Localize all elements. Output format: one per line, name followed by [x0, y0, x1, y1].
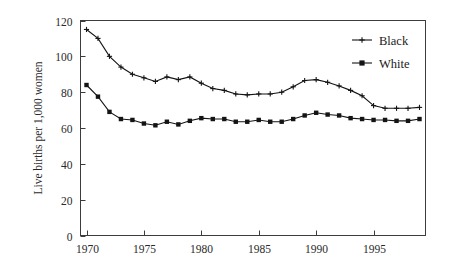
data-point [176, 122, 180, 126]
data-point [268, 120, 272, 124]
data-point [279, 90, 284, 95]
series-line-white [87, 85, 420, 125]
x-axis-ticks [88, 231, 375, 236]
data-point [211, 117, 215, 121]
data-point [187, 74, 192, 79]
legend-label-black: Black [379, 34, 409, 48]
data-point [233, 91, 238, 96]
series-line-black [87, 29, 420, 108]
data-point [245, 120, 249, 124]
data-point [130, 118, 134, 122]
y-tick-label-60: 60 [61, 123, 73, 135]
data-point [405, 106, 410, 111]
data-point [337, 113, 341, 117]
data-point [130, 72, 135, 77]
data-point [107, 110, 111, 114]
legend-item-white: White [352, 57, 410, 71]
y-axis-title: Live births per 1,000 women [32, 61, 45, 194]
data-point [348, 116, 352, 120]
data-point [280, 120, 284, 124]
data-point [96, 94, 100, 98]
data-point [348, 88, 353, 93]
data-point [222, 117, 226, 121]
data-point [119, 117, 123, 121]
plot-frame [81, 21, 426, 236]
data-point [222, 88, 227, 93]
legend-label-white: White [379, 57, 410, 71]
data-point [417, 117, 421, 121]
data-point [165, 120, 169, 124]
line-chart: 020406080100120 197019751980198519901995… [0, 0, 462, 277]
x-tick-label-1975: 1975 [133, 243, 156, 255]
data-point [291, 117, 295, 121]
legend-item-black: Black [352, 34, 409, 48]
y-tick-label-120: 120 [55, 16, 73, 28]
y-tick-label-20: 20 [61, 195, 73, 207]
data-point [291, 84, 296, 89]
data-point [302, 113, 306, 117]
data-point [417, 105, 422, 110]
x-tick-label-1970: 1970 [76, 243, 99, 255]
y-tick-label-80: 80 [61, 87, 73, 99]
x-axis-tick-labels: 197019751980198519901995 [76, 243, 386, 255]
y-axis-tick-labels: 020406080100120 [55, 16, 73, 243]
x-tick-label-1990: 1990 [305, 243, 328, 255]
data-point [314, 77, 319, 82]
y-tick-label-40: 40 [61, 159, 73, 171]
data-point [394, 119, 398, 123]
data-point [153, 123, 157, 127]
legend-swatch-marker [359, 37, 365, 43]
data-point [199, 81, 204, 86]
data-point [325, 80, 330, 85]
data-point [394, 106, 399, 111]
data-point [337, 83, 342, 88]
data-point [360, 117, 364, 121]
data-point [199, 116, 203, 120]
data-point [164, 74, 169, 79]
data-point [234, 120, 238, 124]
y-tick-label-100: 100 [55, 51, 73, 63]
legend-swatch-marker [359, 60, 364, 65]
data-point [383, 118, 387, 122]
y-axis-ticks [81, 22, 86, 237]
x-tick-label-1985: 1985 [248, 243, 271, 255]
data-point [314, 111, 318, 115]
data-point [302, 78, 307, 83]
data-point [256, 91, 261, 96]
data-point [406, 119, 410, 123]
data-point [382, 106, 387, 111]
data-point [210, 86, 215, 91]
data-point [176, 77, 181, 82]
data-point [371, 118, 375, 122]
y-tick-label-0: 0 [67, 231, 73, 243]
data-point [268, 91, 273, 96]
data-point [141, 75, 146, 80]
x-tick-label-1995: 1995 [363, 243, 386, 255]
data-point [325, 112, 329, 116]
data-point [188, 119, 192, 123]
x-tick-label-1980: 1980 [190, 243, 213, 255]
data-point [153, 79, 158, 84]
data-point [142, 121, 146, 125]
chart-container: 020406080100120 197019751980198519901995… [0, 0, 462, 277]
series-layer [84, 27, 422, 128]
data-point [245, 92, 250, 97]
data-point [84, 83, 88, 87]
chart-legend: BlackWhite [352, 34, 410, 71]
data-point [257, 118, 261, 122]
